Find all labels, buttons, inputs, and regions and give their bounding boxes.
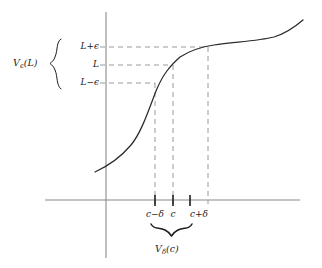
limit-diagram-svg [0,0,322,268]
y-label-L-plus-epsilon: L+ϵ [62,42,99,51]
epsilon-label-argument: (L) [24,57,38,68]
delta-brace [151,224,192,236]
delta-label-argument: (c) [166,243,179,254]
delta-label-base: V [155,243,162,254]
x-label-c-plus-delta: c+δ [181,210,217,219]
x-label-c: c [166,210,180,219]
epsilon-brace [50,39,61,89]
figure-canvas: L+ϵ L L−ϵ c−δ c c+δ Vϵ(L) Vδ(c) [0,0,322,268]
y-label-L-minus-epsilon: L−ϵ [62,78,99,87]
epsilon-neighborhood-label: Vϵ(L) [13,58,37,70]
y-label-L: L [62,60,99,69]
epsilon-label-base: V [13,57,20,68]
function-curve [95,20,303,172]
delta-neighborhood-label: Vδ(c) [155,244,179,256]
